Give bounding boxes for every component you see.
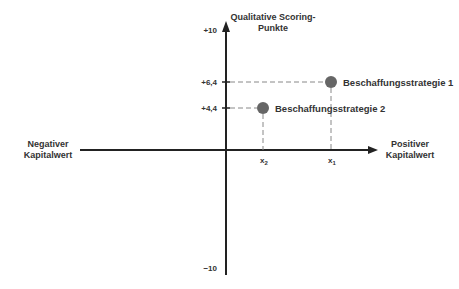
x-axis-negative-line2: Kapitalwert xyxy=(24,150,73,160)
x-axis-positive-line1: Positiver xyxy=(391,139,430,149)
x-axis-arrow-icon xyxy=(368,146,378,154)
y-axis-title-line1: Qualitative Scoring- xyxy=(230,12,315,22)
x-tick-label-x1: x1 xyxy=(328,156,336,166)
x-axis-negative-line1: Negativer xyxy=(27,139,69,149)
y-tick-label-6-4: +6,4 xyxy=(201,78,217,87)
chart: Beschaffungsstrategie 1 Beschaffungsstra… xyxy=(0,0,459,289)
point-label-2: Beschaffungsstrategie 2 xyxy=(275,103,385,114)
y-tick-label-4-4: +4,4 xyxy=(201,104,217,113)
x-axis-positive-line2: Kapitalwert xyxy=(386,150,435,160)
y-axis-title-line2: Punkte xyxy=(258,23,288,33)
y-tick-label-top: +10 xyxy=(203,26,217,35)
data-point-strategie-1 xyxy=(325,76,337,88)
x-tick-label-x2: x2 xyxy=(260,156,268,166)
y-tick-label-bottom: −10 xyxy=(203,264,217,273)
point-label-1: Beschaffungsstrategie 1 xyxy=(343,77,454,88)
data-point-strategie-2 xyxy=(257,102,269,114)
y-axis-arrow-icon xyxy=(222,21,230,32)
